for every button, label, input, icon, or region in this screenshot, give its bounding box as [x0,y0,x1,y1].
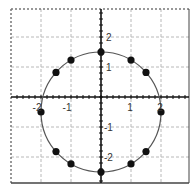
x-tick-label: 1 [127,102,133,113]
data-point [127,160,134,167]
data-point [52,148,59,155]
data-point [142,69,149,76]
circle-plot: -2-112-2-112 [0,0,194,190]
x-tick-label: -1 [63,102,72,113]
y-tick-label: 2 [106,32,112,43]
data-point [97,168,104,175]
y-tick-label: -2 [104,152,113,163]
x-tick-label: -2 [33,102,42,113]
data-point [97,48,104,55]
x-tick-label: 2 [157,102,163,113]
data-point [67,57,74,64]
data-point [52,69,59,76]
data-point [127,57,134,64]
data-point [67,160,74,167]
y-tick-label: -1 [104,122,113,133]
data-point [142,148,149,155]
y-tick-label: 1 [106,62,112,73]
